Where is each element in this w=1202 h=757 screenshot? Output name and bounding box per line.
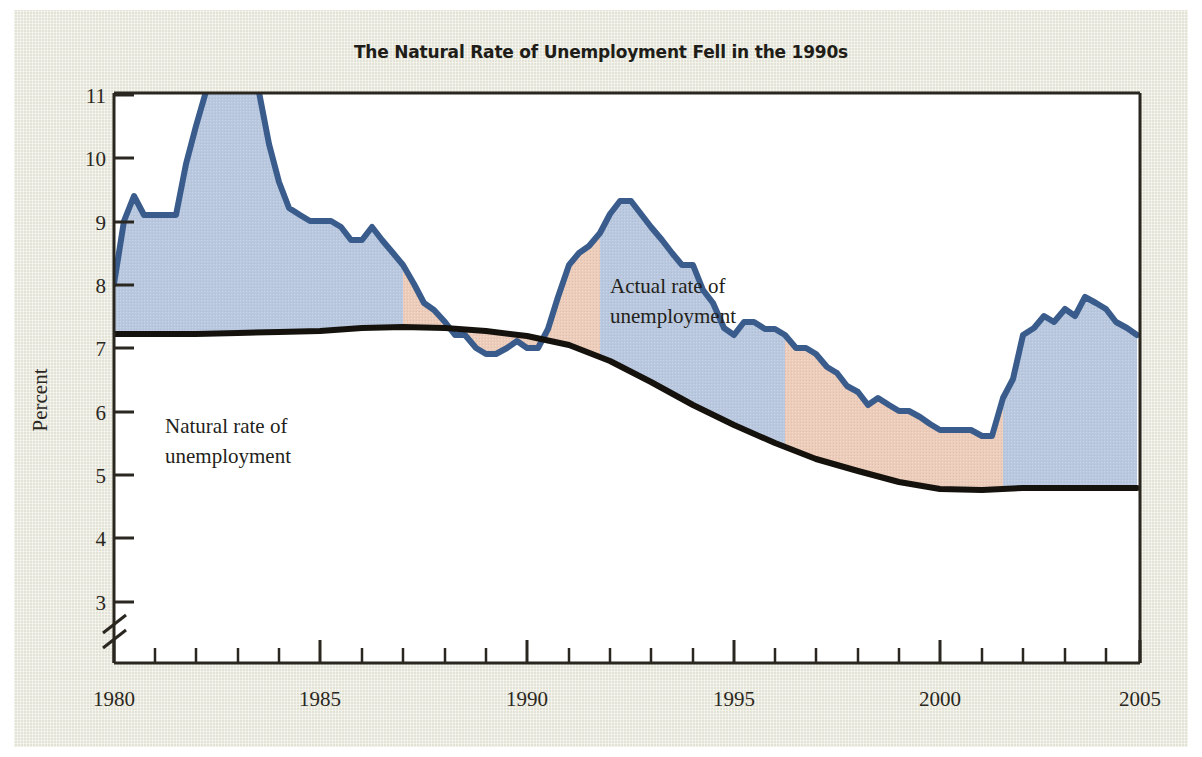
xtick-2000: 2000 xyxy=(919,687,961,711)
xtick-1990: 1990 xyxy=(506,687,548,711)
x-axis-tick-labels: 1980 1985 1990 1995 2000 2005 xyxy=(93,687,1161,711)
unemployment-chart-plot: 11 10 9 8 7 6 5 4 3 Percent xyxy=(0,0,1202,757)
ytick-10: 10 xyxy=(85,147,106,171)
natural-rate-annotation-line2: unemployment xyxy=(165,444,291,468)
ytick-9: 9 xyxy=(96,211,107,235)
ytick-8: 8 xyxy=(96,274,107,298)
ytick-3: 3 xyxy=(96,591,107,615)
ytick-5: 5 xyxy=(96,464,107,488)
y-axis-title: Percent xyxy=(28,368,52,431)
xtick-1995: 1995 xyxy=(713,687,755,711)
ytick-11: 11 xyxy=(86,84,106,108)
xtick-1980: 1980 xyxy=(93,687,135,711)
actual-rate-annotation-line1: Actual rate of xyxy=(610,274,725,298)
ytick-4: 4 xyxy=(96,527,107,551)
natural-rate-annotation-line1: Natural rate of xyxy=(165,414,287,438)
xtick-2005: 2005 xyxy=(1119,687,1161,711)
y-axis-tick-labels: 11 10 9 8 7 6 5 4 3 xyxy=(85,84,107,615)
ytick-7: 7 xyxy=(96,337,107,361)
actual-rate-annotation-line2: unemployment xyxy=(610,304,736,328)
ytick-6: 6 xyxy=(96,401,107,425)
xtick-1985: 1985 xyxy=(299,687,341,711)
figure-container: The Natural Rate of Unemployment Fell in… xyxy=(0,0,1202,757)
